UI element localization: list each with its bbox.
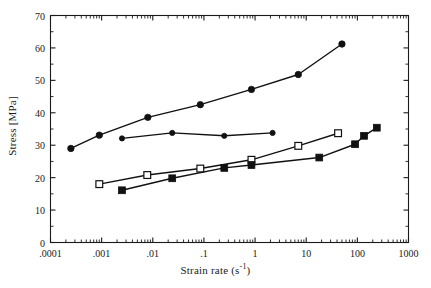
data-point-marker — [270, 130, 275, 135]
x-tick-label: .0001 — [39, 248, 62, 259]
data-point-marker — [339, 41, 345, 47]
x-tick-label: 100 — [350, 248, 365, 259]
y-tick-label: 70 — [18, 10, 45, 21]
data-point-marker — [145, 114, 151, 120]
data-point-marker — [295, 142, 302, 149]
data-point-marker — [170, 130, 175, 135]
data-series-group — [68, 41, 381, 194]
data-point-marker — [144, 172, 151, 179]
y-tick-label: 40 — [18, 107, 45, 118]
x-axis-title-base: Strain rate (s — [181, 264, 240, 276]
data-point-marker — [222, 133, 227, 138]
y-tick-label: 60 — [18, 42, 45, 53]
chart-plot-area — [0, 0, 431, 288]
x-tick-label: .001 — [93, 248, 111, 259]
data-point-marker — [197, 165, 204, 172]
data-point-marker — [248, 162, 255, 169]
x-axis-title-superscript: -1 — [240, 262, 247, 271]
x-tick-label: 10 — [301, 248, 311, 259]
axis-frame — [51, 16, 409, 243]
data-point-marker — [316, 154, 323, 161]
data-series — [119, 130, 275, 141]
data-point-marker — [119, 136, 124, 141]
y-tick-label: 0 — [18, 237, 45, 248]
data-point-marker — [119, 187, 126, 194]
data-point-marker — [352, 141, 359, 148]
data-point-marker — [197, 101, 203, 107]
x-axis-title: Strain rate (s-1) — [0, 262, 431, 276]
y-axis-title-wrapper: Stress [MPa] — [2, 61, 20, 191]
axis-ticks — [51, 16, 409, 243]
data-point-marker — [221, 165, 228, 172]
data-point-marker — [248, 86, 254, 92]
data-point-marker — [96, 132, 102, 138]
data-point-marker — [169, 175, 176, 182]
data-point-marker — [295, 71, 301, 77]
data-point-marker — [96, 181, 103, 188]
x-tick-label: .01 — [147, 248, 160, 259]
x-axis-title-tail: ) — [247, 264, 251, 276]
x-tick-label: 1 — [253, 248, 258, 259]
x-tick-label: 1000 — [399, 248, 419, 259]
y-tick-label: 50 — [18, 75, 45, 86]
data-point-marker — [373, 124, 380, 131]
y-tick-label: 20 — [18, 172, 45, 183]
y-tick-label: 10 — [18, 205, 45, 216]
data-point-marker — [68, 145, 74, 151]
data-point-marker — [361, 132, 368, 139]
y-axis-title: Stress [MPa] — [6, 96, 18, 156]
x-tick-label: .1 — [200, 248, 208, 259]
y-tick-label: 30 — [18, 140, 45, 151]
chart-figure: .0001.001.01.11101001000 010203040506070… — [0, 0, 431, 288]
data-point-marker — [335, 130, 342, 137]
